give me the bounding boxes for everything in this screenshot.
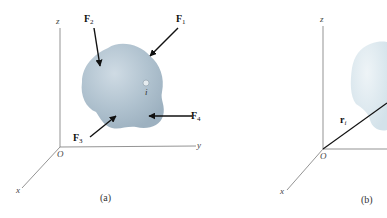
force-label-f1: F1 bbox=[176, 14, 186, 26]
x-axis-label-b: x bbox=[280, 187, 284, 196]
force-label-f3: F3 bbox=[73, 133, 83, 145]
x-axis-label-a: x bbox=[16, 186, 20, 195]
caption-a: (a) bbox=[100, 193, 111, 203]
particle-label-i: i bbox=[145, 88, 148, 97]
y-axis-label-a: y bbox=[197, 141, 201, 150]
x-axis-b bbox=[287, 149, 323, 190]
particle-i bbox=[143, 80, 149, 86]
rigid-body-b bbox=[351, 42, 387, 131]
origin-label-a: O bbox=[57, 150, 64, 159]
force-arrow-f1 bbox=[150, 28, 178, 56]
caption-b: (b) bbox=[361, 195, 373, 205]
origin-label-b: O bbox=[320, 152, 327, 161]
force-label-f4: F4 bbox=[191, 111, 201, 123]
z-axis-label-a: z bbox=[56, 17, 60, 26]
diagram-canvas bbox=[0, 0, 387, 218]
z-axis-label-b: z bbox=[320, 15, 324, 24]
x-axis-a bbox=[22, 147, 60, 188]
panel-b bbox=[287, 26, 387, 190]
figure: z y x O F2 F1 F3 F4 i (a) z x O ri (b) bbox=[0, 0, 387, 218]
y-axis-a bbox=[60, 146, 196, 147]
force-label-f1-sym-2: F2 bbox=[84, 14, 94, 26]
position-vector-label: ri bbox=[340, 115, 346, 127]
panel-a bbox=[22, 28, 196, 188]
